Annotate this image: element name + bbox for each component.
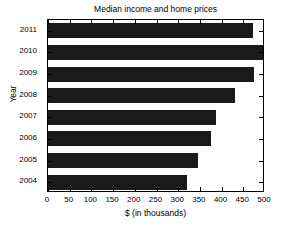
y-tick-mark — [259, 182, 263, 183]
bar — [48, 67, 254, 82]
y-tick-label: 2011 — [20, 25, 43, 34]
x-tick-label: 400 — [214, 195, 227, 204]
x-tick-label: 200 — [127, 195, 140, 204]
x-tick-label: 350 — [192, 195, 205, 204]
bar-row — [48, 23, 264, 38]
x-tick-mark — [70, 187, 71, 191]
x-tick-label: 500 — [257, 195, 270, 204]
y-axis-label: Year — [8, 64, 18, 124]
bar-row — [48, 131, 264, 146]
y-tick-mark — [48, 182, 52, 183]
y-axis-tick-labels: 20112010200920082007200620052004 — [0, 19, 43, 192]
x-tick-mark — [157, 20, 158, 24]
y-tick-label: 2006 — [19, 133, 43, 142]
x-tick-mark — [178, 187, 179, 191]
x-tick-mark — [222, 20, 223, 24]
x-tick-label: 450 — [236, 195, 249, 204]
y-tick-label: 2005 — [19, 155, 43, 164]
x-tick-mark — [200, 187, 201, 191]
y-tick-label: 2009 — [19, 68, 43, 77]
bar — [48, 131, 211, 146]
y-tick-mark — [259, 31, 263, 32]
y-tick-label: 2008 — [19, 90, 43, 99]
x-tick-mark — [70, 20, 71, 24]
chart-figure: Median income and home prices 0501001502… — [0, 0, 281, 237]
x-tick-label: 150 — [105, 195, 118, 204]
x-tick-mark — [135, 20, 136, 24]
x-tick-label: 100 — [84, 195, 97, 204]
plot-area — [47, 19, 264, 192]
bar-row — [48, 45, 264, 60]
chart-title: Median income and home prices — [47, 4, 264, 14]
x-tick-mark — [200, 20, 201, 24]
bar — [48, 45, 264, 60]
x-tick-label: 300 — [171, 195, 184, 204]
y-tick-mark — [48, 52, 52, 53]
y-tick-mark — [259, 96, 263, 97]
y-tick-mark — [48, 31, 52, 32]
bar-row — [48, 67, 264, 82]
y-tick-mark — [259, 74, 263, 75]
x-tick-mark — [91, 187, 92, 191]
x-tick-mark — [91, 20, 92, 24]
x-tick-mark — [113, 187, 114, 191]
bars-layer — [48, 20, 263, 191]
y-tick-mark — [259, 52, 263, 53]
x-tick-mark — [48, 187, 49, 191]
bar — [48, 153, 198, 168]
bar — [48, 110, 216, 125]
x-axis-label: $ (in thousands) — [47, 208, 264, 218]
x-tick-mark — [48, 20, 49, 24]
x-tick-mark — [178, 20, 179, 24]
x-tick-mark — [157, 187, 158, 191]
y-tick-label: 2010 — [19, 46, 43, 55]
y-tick-mark — [48, 161, 52, 162]
x-tick-label: 250 — [149, 195, 162, 204]
x-tick-label: 0 — [45, 195, 49, 204]
x-tick-mark — [222, 187, 223, 191]
y-tick-mark — [48, 74, 52, 75]
x-tick-mark — [113, 20, 114, 24]
y-tick-mark — [48, 96, 52, 97]
y-tick-mark — [259, 139, 263, 140]
y-tick-mark — [48, 139, 52, 140]
y-tick-mark — [48, 117, 52, 118]
y-tick-label: 2007 — [19, 111, 43, 120]
bar-row — [48, 153, 264, 168]
bar — [48, 23, 253, 38]
y-tick-label: 2004 — [19, 176, 43, 185]
bar-row — [48, 110, 264, 125]
y-tick-mark — [259, 161, 263, 162]
bar-row — [48, 88, 264, 103]
x-tick-mark — [243, 187, 244, 191]
bar — [48, 88, 235, 103]
x-tick-label: 50 — [64, 195, 73, 204]
y-tick-mark — [259, 117, 263, 118]
x-tick-mark — [243, 20, 244, 24]
x-tick-mark — [135, 187, 136, 191]
